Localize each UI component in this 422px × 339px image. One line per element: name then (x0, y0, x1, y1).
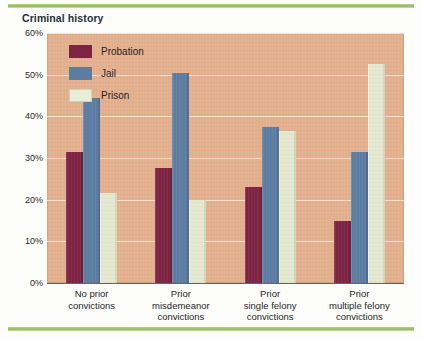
legend-label-probation: Probation (101, 46, 144, 57)
y-axis-tick-label: 10% (7, 236, 43, 246)
chart-figure: Criminal history Probation Jail Prison 0… (0, 0, 422, 339)
legend-label-prison: Prison (101, 90, 129, 101)
bar-jail (172, 73, 189, 283)
gridline (47, 116, 404, 117)
bar-probation (334, 221, 351, 284)
bar-jail (83, 98, 100, 283)
y-axis-tick-label: 50% (7, 70, 43, 80)
y-axis-tick-label: 40% (7, 111, 43, 121)
x-axis-label-line: convictions (226, 311, 315, 323)
bar-probation (155, 168, 172, 283)
y-axis-tick-label: 60% (7, 28, 43, 38)
x-axis-label-line: multiple felony (315, 300, 404, 312)
bar-prison (279, 131, 296, 283)
decorative-rule-top (8, 4, 414, 8)
bar-probation (245, 187, 262, 283)
legend-item-prison: Prison (69, 84, 144, 106)
bar-prison (368, 64, 385, 283)
x-axis-label-line: Prior (136, 288, 225, 300)
legend-item-probation: Probation (69, 40, 144, 62)
y-axis-tick-label: 20% (7, 195, 43, 205)
x-axis-label-line: misdemeanor (136, 300, 225, 312)
y-axis-tick-label: 30% (7, 153, 43, 163)
decorative-rule-bottom (8, 327, 414, 331)
x-axis-category-label: No priorconvictions (47, 288, 136, 311)
x-axis-label-line: convictions (47, 300, 136, 312)
x-axis-category-label: Priormultiple felonyconvictions (315, 288, 404, 323)
plot-area: Probation Jail Prison (47, 33, 404, 283)
chart-legend: Probation Jail Prison (69, 40, 144, 106)
x-axis-label-line: No prior (47, 288, 136, 300)
bar-jail (351, 152, 368, 283)
x-axis-category-label: Priorsingle felonyconvictions (226, 288, 315, 323)
bar-jail (262, 127, 279, 283)
legend-item-jail: Jail (69, 62, 144, 84)
legend-label-jail: Jail (101, 68, 116, 79)
x-axis-label-line: Prior (315, 288, 404, 300)
legend-swatch-probation-icon (69, 45, 92, 58)
gridline (47, 283, 404, 284)
y-axis-tick-label: 0% (7, 278, 43, 288)
x-axis-label-line: convictions (136, 311, 225, 323)
x-axis-label-line: single felony (226, 300, 315, 312)
x-axis-label-line: convictions (315, 311, 404, 323)
page-title: Criminal history (22, 12, 104, 24)
bar-prison (189, 200, 206, 283)
x-axis-category-label: Priormisdemeanorconvictions (136, 288, 225, 323)
x-axis-label-line: Prior (226, 288, 315, 300)
bar-probation (66, 152, 83, 283)
legend-swatch-jail-icon (69, 67, 92, 80)
gridline (47, 33, 404, 34)
legend-swatch-prison-icon (69, 89, 92, 102)
bar-prison (100, 193, 117, 283)
